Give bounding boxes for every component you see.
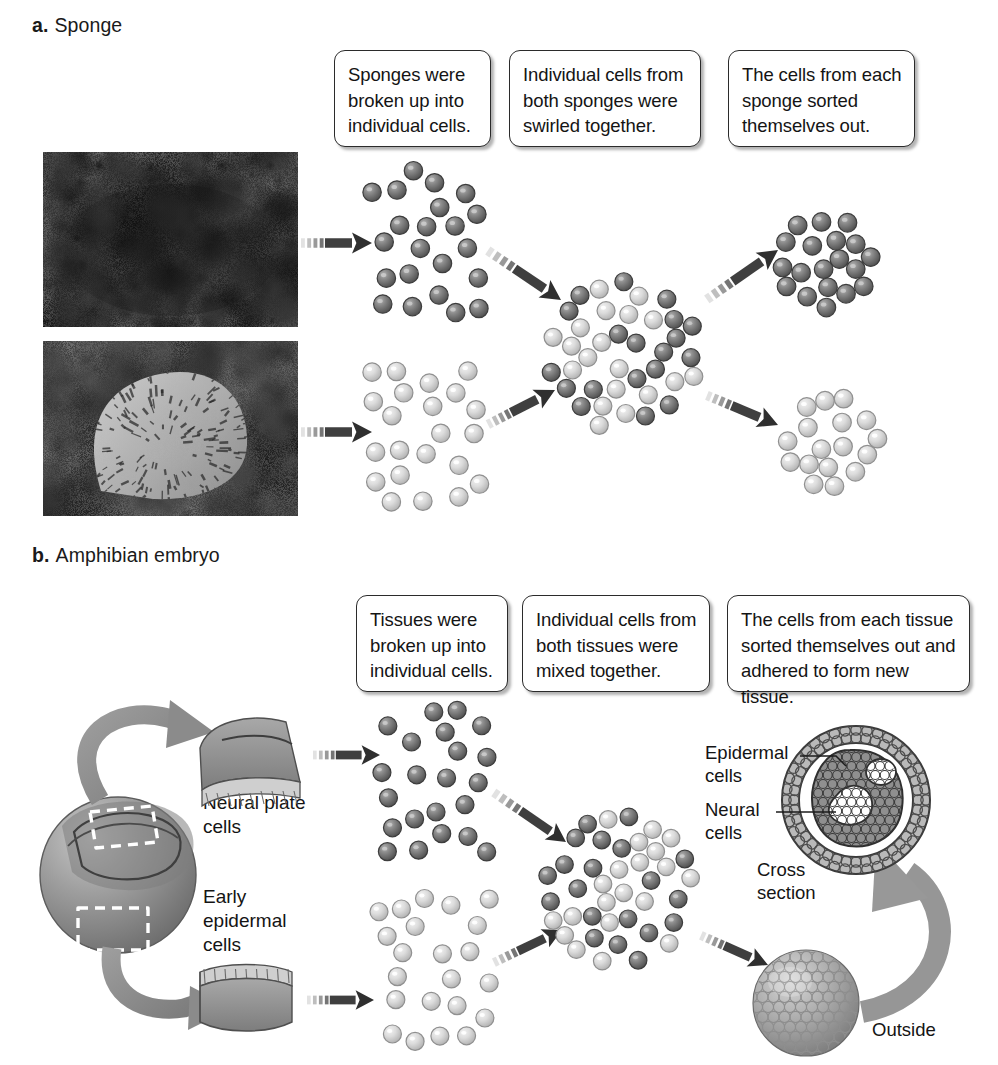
ball-cell bbox=[762, 941, 773, 952]
neural-cell bbox=[895, 780, 904, 789]
epidermal-cell bbox=[870, 854, 880, 864]
arrow-dash bbox=[319, 751, 323, 760]
cell-dark bbox=[379, 717, 397, 735]
cell-highlight bbox=[566, 341, 571, 345]
epidermal-cell bbox=[872, 728, 882, 738]
cell-highlight bbox=[370, 447, 376, 451]
ball-cell bbox=[795, 1001, 806, 1012]
arrow-head bbox=[356, 990, 374, 1009]
neural-cell bbox=[814, 789, 823, 798]
epidermal-cell bbox=[794, 754, 804, 764]
cell-highlight bbox=[462, 366, 468, 370]
cell-light bbox=[601, 914, 619, 932]
arrow-head bbox=[352, 233, 372, 254]
cell-dark bbox=[542, 363, 560, 381]
cell-highlight bbox=[597, 956, 602, 960]
ball-body bbox=[753, 950, 859, 1056]
cell-dark bbox=[431, 198, 449, 216]
cell-light bbox=[563, 337, 581, 355]
neural-cell bbox=[838, 798, 847, 807]
cell-highlight bbox=[473, 778, 478, 782]
cell-highlight bbox=[785, 457, 791, 461]
tissue-cell-divider bbox=[215, 969, 216, 983]
arrow-dash bbox=[313, 751, 317, 760]
neural-plate-cells-label: Neural plate cells bbox=[203, 791, 305, 839]
epidermal-cell bbox=[912, 785, 922, 795]
ball-cell bbox=[773, 1041, 784, 1052]
cell-light bbox=[610, 861, 628, 879]
cell-highlight bbox=[476, 721, 481, 725]
cell-dark bbox=[817, 298, 836, 317]
cell-highlight bbox=[802, 422, 808, 426]
arrow-shaft bbox=[730, 401, 761, 421]
neural-cell bbox=[876, 762, 885, 771]
cell-highlight bbox=[468, 428, 474, 432]
cell-highlight bbox=[616, 844, 621, 848]
neural-cell bbox=[895, 816, 904, 825]
epidermis-selection bbox=[78, 908, 148, 950]
cell-highlight bbox=[564, 306, 569, 310]
ball-cell bbox=[757, 1051, 768, 1062]
arrow-mix-to-light-sorted bbox=[705, 391, 782, 435]
ball-cell bbox=[746, 1051, 757, 1062]
ball-cell bbox=[746, 971, 757, 982]
ball-cell bbox=[762, 1021, 773, 1032]
ball-cell bbox=[839, 1041, 850, 1052]
cell-light bbox=[781, 453, 800, 472]
neural-cell bbox=[899, 807, 908, 816]
arrow-shaft bbox=[512, 265, 547, 293]
epidermal-cell bbox=[872, 861, 882, 871]
cell-light bbox=[378, 927, 396, 945]
cell-highlight bbox=[829, 481, 835, 485]
neural-cell bbox=[828, 798, 837, 807]
leader-line-epidermal bbox=[800, 756, 846, 766]
ball-cell bbox=[751, 961, 762, 972]
cell-light bbox=[431, 1027, 449, 1045]
cell-light bbox=[647, 843, 665, 861]
arrow-dash bbox=[320, 427, 324, 437]
cell-light bbox=[480, 890, 498, 908]
neural-cell bbox=[880, 807, 889, 816]
neural-cell bbox=[899, 753, 908, 762]
cell-dark bbox=[854, 277, 873, 296]
cell-light bbox=[394, 944, 412, 962]
epidermal-cell bbox=[920, 784, 930, 794]
cell-highlight bbox=[614, 364, 619, 368]
arrow-shaft bbox=[722, 942, 752, 962]
arrow-dash bbox=[505, 798, 514, 808]
arrow-dash bbox=[498, 794, 507, 804]
arrow-dash bbox=[717, 939, 724, 949]
neural-cell bbox=[823, 771, 832, 780]
cell-highlight bbox=[484, 894, 489, 898]
epidermal-cell bbox=[819, 732, 829, 742]
cell-highlight bbox=[484, 978, 489, 982]
cell-highlight bbox=[613, 329, 618, 333]
ball-cell bbox=[790, 991, 801, 1002]
ball-cell bbox=[828, 1041, 839, 1052]
outside-label: Outside bbox=[872, 1018, 936, 1041]
neural-cell bbox=[819, 816, 828, 825]
arrow-head bbox=[352, 422, 372, 443]
arrow-head bbox=[747, 948, 772, 974]
cell-light bbox=[685, 367, 703, 385]
curved-arrow-to-epidermal bbox=[111, 948, 232, 1030]
epidermal-cell bbox=[920, 806, 930, 816]
cell-highlight bbox=[481, 847, 486, 851]
arrow-dash bbox=[718, 396, 726, 406]
epidermal-cell bbox=[796, 823, 806, 833]
epidermal-cell bbox=[801, 745, 811, 755]
epidermal-cell bbox=[790, 785, 800, 795]
cell-light bbox=[816, 391, 835, 410]
cell-light bbox=[480, 974, 498, 992]
neural-cell bbox=[880, 771, 889, 780]
epidermal-cell bbox=[883, 857, 893, 867]
cell-highlight bbox=[582, 819, 587, 823]
cell-highlight bbox=[680, 854, 685, 858]
cell-highlight bbox=[618, 277, 623, 281]
neural-cell-mosaic bbox=[800, 744, 909, 852]
ball-cell bbox=[834, 1031, 845, 1042]
cell-highlight bbox=[861, 415, 867, 419]
curved-arrow-head bbox=[188, 986, 232, 1030]
cell-highlight bbox=[673, 894, 678, 898]
ball-cell bbox=[812, 991, 823, 1002]
